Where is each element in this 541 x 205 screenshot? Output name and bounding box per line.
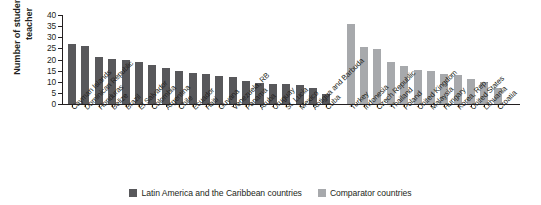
- y-tick-label: 40: [36, 11, 56, 19]
- y-tick-mark: [58, 48, 62, 49]
- legend-item-comparator: Comparator countries: [318, 189, 412, 198]
- y-tick-mark: [58, 26, 62, 27]
- y-tick-label: 15: [36, 67, 56, 75]
- y-tick-label: 10: [36, 78, 56, 86]
- legend-label-lac: Latin America and the Caribbean countrie…: [141, 189, 301, 198]
- y-tick-label: 5: [36, 89, 56, 97]
- legend-swatch-comparator: [318, 189, 326, 197]
- y-tick-label: 20: [36, 56, 56, 64]
- y-tick-label: 0: [36, 100, 56, 108]
- y-tick-mark: [58, 82, 62, 83]
- y-tick-mark: [58, 60, 62, 61]
- bar: [68, 44, 76, 104]
- y-tick-label: 35: [36, 22, 56, 30]
- student-teacher-ratio-bar-chart: Number of students per teacher 051015202…: [0, 0, 541, 205]
- y-tick-mark: [58, 71, 62, 72]
- legend-swatch-lac: [129, 189, 137, 197]
- y-tick-mark: [58, 93, 62, 94]
- legend-item-lac: Latin America and the Caribbean countrie…: [129, 189, 301, 198]
- y-tick-mark: [58, 15, 62, 16]
- x-axis-category-labels: Cayman IslandsDominican RepublicHonduras…: [62, 104, 532, 176]
- y-tick-mark: [58, 37, 62, 38]
- y-tick-label: 25: [36, 44, 56, 52]
- chart-legend: Latin America and the Caribbean countrie…: [0, 186, 541, 200]
- y-tick-label: 30: [36, 33, 56, 41]
- legend-label-comparator: Comparator countries: [330, 189, 412, 198]
